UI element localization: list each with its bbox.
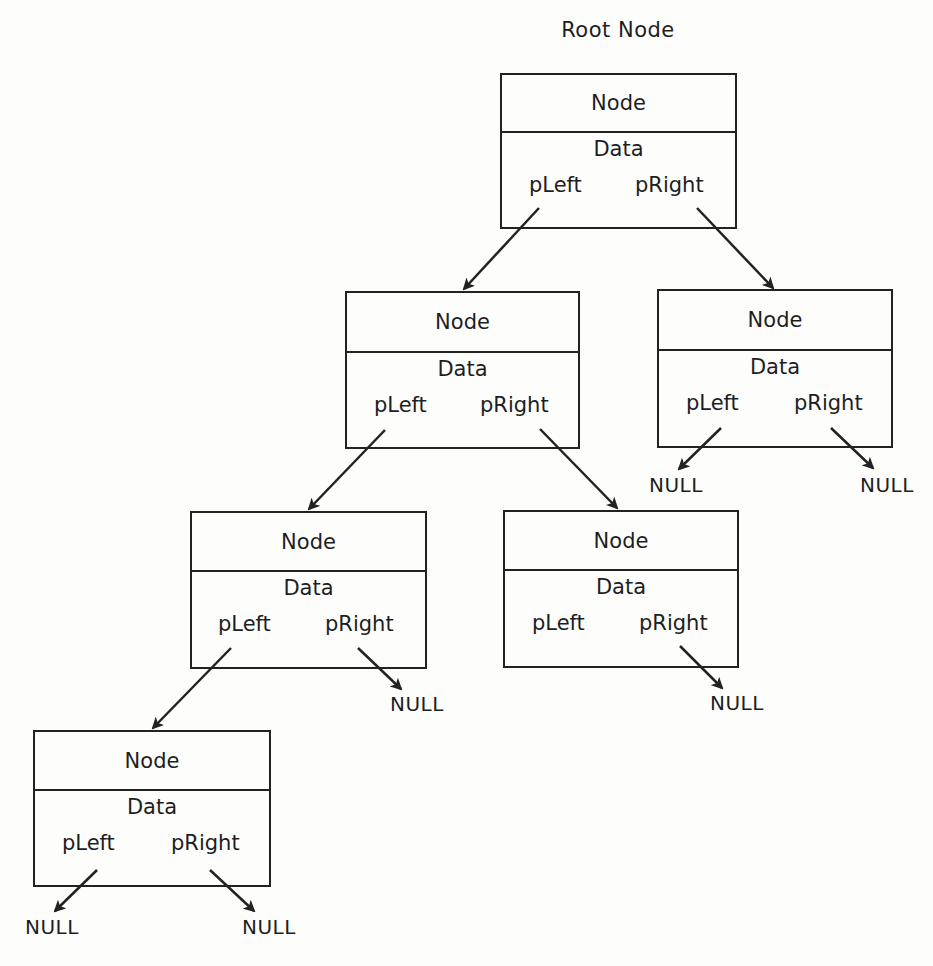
node-body: Data pLeft pRight — [505, 571, 737, 666]
node-data-field: Data — [35, 795, 269, 819]
null-label: NULL — [860, 473, 914, 497]
null-label: NULL — [390, 692, 444, 716]
node-header: Node — [505, 512, 737, 571]
pleft-field: pLeft — [532, 611, 585, 635]
node-header: Node — [347, 293, 578, 353]
node-header: Node — [659, 291, 891, 351]
node-header: Node — [35, 732, 269, 791]
pleft-field: pLeft — [62, 831, 115, 855]
root-node-title: Root Node — [561, 18, 675, 42]
node-header: Node — [502, 75, 735, 133]
node-data-field: Data — [347, 357, 578, 381]
node-data-field: Data — [502, 137, 735, 161]
tree-node-l1-right: Node Data pLeft pRight — [657, 289, 893, 448]
pleft-field: pLeft — [374, 393, 427, 417]
node-body: Data pLeft pRight — [659, 351, 891, 446]
pleft-field: pLeft — [218, 612, 271, 636]
tree-node-l2-left: Node Data pLeft pRight — [190, 511, 427, 669]
pright-field: pRight — [639, 611, 708, 635]
node-data-field: Data — [505, 575, 737, 599]
pleft-field: pLeft — [686, 391, 739, 415]
node-body: Data pLeft pRight — [192, 572, 425, 667]
pright-field: pRight — [480, 393, 549, 417]
tree-node-l3-left: Node Data pLeft pRight — [33, 730, 271, 887]
node-data-field: Data — [192, 576, 425, 600]
null-label: NULL — [25, 915, 79, 939]
node-body: Data pLeft pRight — [347, 353, 578, 447]
node-body: Data pLeft pRight — [35, 791, 269, 885]
node-data-field: Data — [659, 355, 891, 379]
pright-field: pRight — [635, 173, 704, 197]
pright-field: pRight — [171, 831, 240, 855]
node-header: Node — [192, 513, 425, 572]
pright-field: pRight — [325, 612, 394, 636]
null-label: NULL — [649, 473, 703, 497]
tree-node-l2-right: Node Data pLeft pRight — [503, 510, 739, 668]
null-label: NULL — [242, 915, 296, 939]
pleft-field: pLeft — [529, 173, 582, 197]
tree-node-root: Node Data pLeft pRight — [500, 73, 737, 229]
node-body: Data pLeft pRight — [502, 133, 735, 227]
pright-field: pRight — [794, 391, 863, 415]
binary-tree-diagram: Root Node Node Data pLeft pRight Node Da… — [0, 0, 933, 966]
null-label: NULL — [710, 691, 764, 715]
tree-node-l1-left: Node Data pLeft pRight — [345, 291, 580, 449]
